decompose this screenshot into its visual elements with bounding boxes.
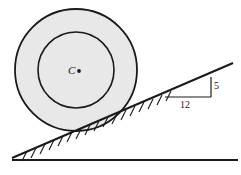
mechanics-figure: C [0, 0, 241, 175]
slope-rise-label: 5 [214, 80, 219, 91]
wheel-center-point-icon [77, 69, 81, 73]
wheel-inner-circle [38, 32, 114, 108]
wheel-center-label: C [68, 64, 76, 76]
slope-run-label: 12 [180, 99, 190, 110]
diagram-canvas: C [0, 0, 241, 175]
